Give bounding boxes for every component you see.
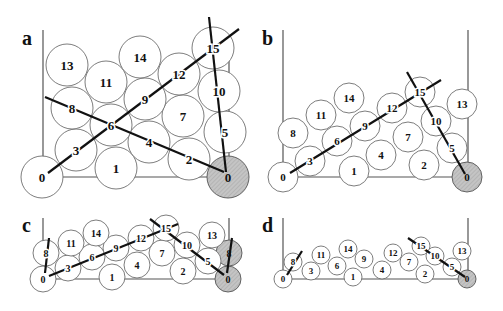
panel-a: 01203456789101112131415a [21, 17, 249, 198]
panel-d: 08311614194127152105130d [262, 214, 476, 288]
ball-number: 1 [113, 161, 120, 176]
ball-number: 12 [136, 233, 146, 244]
panel-label: c [22, 214, 31, 236]
ball-number: 6 [334, 135, 340, 147]
ball-number: 10 [213, 84, 226, 99]
ball-number: 7 [160, 248, 165, 259]
ball-number: 3 [66, 263, 71, 274]
ball-number: 6 [108, 118, 115, 133]
ball-number: 7 [407, 257, 412, 267]
ball-number: 13 [457, 98, 469, 110]
ball-number: 9 [362, 120, 368, 132]
ball-number: 5 [450, 262, 455, 272]
ball-number: 9 [362, 254, 367, 264]
ball-number: 14 [91, 228, 101, 239]
ball-number: 1 [351, 165, 357, 177]
ball-number: 10 [431, 115, 443, 127]
ball-number: 14 [344, 244, 354, 254]
panels-container: 01203456789101112131415a0120345678910111… [21, 17, 482, 292]
ball-number: 5 [449, 142, 455, 154]
ball-number: 5 [222, 125, 229, 140]
ball-number: 12 [389, 248, 399, 258]
ball-number: 13 [458, 246, 468, 256]
ball-number: 0 [39, 170, 46, 185]
ball-number: 3 [309, 266, 314, 276]
ball-number: 5 [206, 256, 211, 267]
panel-c: 012083456789101112131415c [22, 214, 242, 292]
ball-number: 6 [335, 261, 340, 271]
ball-number: 3 [73, 143, 80, 158]
ball-number: 0 [281, 274, 286, 284]
ball-number: 0 [41, 274, 46, 285]
ball-number: 4 [380, 265, 385, 275]
ball-number: 14 [134, 50, 148, 65]
ball-number: 7 [180, 109, 187, 124]
ball-number: 13 [207, 230, 217, 241]
panel-label: a [22, 27, 32, 49]
ball-number: 8 [44, 248, 49, 259]
panel-label: b [262, 27, 273, 49]
ball-number: 10 [182, 240, 192, 251]
ball-number: 8 [227, 248, 232, 259]
ball-number: 2 [423, 269, 428, 279]
ball-number: 4 [378, 149, 384, 161]
panel-label: d [262, 214, 273, 236]
ball-number: 0 [226, 274, 231, 285]
ball-number: 15 [417, 241, 427, 251]
ball-packing-figure: 01203456789101112131415a0120345678910111… [0, 0, 503, 311]
ball-number: 7 [405, 131, 411, 143]
ball-number: 15 [415, 86, 427, 98]
ball-number: 1 [110, 272, 115, 283]
ball-number: 10 [431, 251, 441, 261]
ball-number: 12 [387, 102, 399, 114]
panel-b: 01203456789101112131415b [262, 27, 482, 192]
ball-number: 11 [317, 250, 326, 260]
ball-number: 0 [464, 171, 470, 183]
ball-number: 0 [465, 274, 470, 284]
ball-number: 0 [280, 171, 286, 183]
ball-number: 11 [66, 238, 75, 249]
ball-number: 8 [291, 257, 296, 267]
ball-number: 11 [316, 109, 326, 121]
ball-number: 2 [421, 159, 427, 171]
ball-number: 8 [290, 127, 296, 139]
ball-number: 2 [186, 152, 193, 167]
ball-number: 11 [100, 75, 112, 90]
ball-number: 4 [135, 260, 140, 271]
ball-number: 12 [173, 67, 186, 82]
ball-number: 6 [90, 252, 95, 263]
ball-number: 3 [307, 155, 313, 167]
ball-number: 14 [344, 92, 356, 104]
ball-number: 2 [181, 266, 186, 277]
ball-number: 9 [114, 243, 119, 254]
ball-number: 13 [61, 58, 75, 73]
ball-number: 8 [69, 101, 76, 116]
ball-number: 1 [351, 272, 356, 282]
ball-number: 9 [142, 92, 149, 107]
ball-number: 15 [161, 223, 171, 234]
ball-number: 4 [146, 135, 153, 150]
ball-number: 15 [207, 41, 221, 56]
ball-number: 0 [225, 170, 232, 185]
